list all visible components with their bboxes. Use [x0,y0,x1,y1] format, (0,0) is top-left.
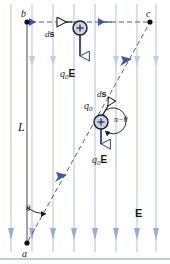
label-force-mid: q0E [92,155,107,167]
label-force-top: q0E [60,69,75,81]
field-arrowhead [134,56,140,66]
label-point-a: a [22,249,27,259]
field-arrowhead [153,228,159,240]
label-charge-mid-sub: 0 [89,105,93,113]
field-arrowheads-bottom [8,228,159,240]
field-arrowhead [113,56,119,66]
path-ac-dashed [28,24,149,241]
label-angle-pi-minus-theta: π−θ [114,116,127,124]
field-arrowhead [50,228,56,240]
label-charge-mid: q0 [84,101,93,113]
field-arrowhead [8,228,14,240]
label-point-c: c [146,9,150,19]
physics-field-diagram: b c a L ds q0E ds q0 π−θ q0E E θ [0,0,170,264]
label-force-top-E: E [69,68,76,79]
diagram-canvas [0,0,170,264]
field-arrowhead [92,228,98,240]
field-arrowhead [29,56,35,66]
point-b-dot [24,19,29,24]
label-ds-mid-s: s [102,89,107,99]
field-arrowhead [113,228,119,240]
label-length-L: L [18,121,25,133]
label-ds-top: ds [45,30,55,39]
field-arrowhead [71,228,77,240]
point-a-dot [24,240,29,245]
path-arrowhead [55,172,67,182]
field-arrowhead [153,56,159,66]
label-force-mid-E: E [101,154,108,165]
field-arrowheads-upper [29,56,159,66]
point-c-dot [147,19,152,24]
label-ds-top-s: s [50,29,55,39]
label-point-b: b [21,9,26,19]
label-field-E: E [135,208,142,219]
field-arrowhead [50,56,56,66]
label-ds-mid: ds [97,90,107,99]
label-angle-theta: θ [26,204,30,213]
field-arrowhead [134,228,140,240]
